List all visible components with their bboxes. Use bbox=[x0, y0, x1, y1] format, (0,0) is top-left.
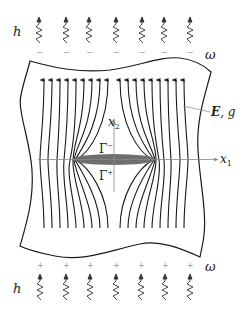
heat-zigzag-icon bbox=[63, 17, 69, 43]
positive-charge-icon: + bbox=[87, 261, 94, 270]
domain-label-top: ω bbox=[205, 47, 216, 62]
negative-charge-icon: − bbox=[86, 48, 93, 57]
bottom-charges: + + + + + + + bbox=[37, 261, 194, 270]
axis-x2-label: x2 bbox=[108, 115, 120, 131]
positive-charge-icon: + bbox=[113, 261, 120, 270]
heat-zigzag-icon bbox=[37, 274, 43, 300]
bottom-heat-sources bbox=[37, 274, 193, 300]
positive-charge-icon: + bbox=[162, 261, 169, 270]
positive-charge-icon: + bbox=[37, 261, 44, 270]
heat-flux-label-bottom: h bbox=[13, 281, 21, 296]
top-heat-sources bbox=[36, 17, 193, 43]
top-charges: − − − − − − − bbox=[36, 48, 194, 57]
negative-charge-icon: − bbox=[161, 48, 168, 57]
heat-zigzag-icon bbox=[86, 17, 92, 43]
positive-charge-icon: + bbox=[63, 261, 70, 270]
heat-zigzag-icon bbox=[161, 17, 167, 43]
heat-zigzag-icon bbox=[162, 274, 168, 300]
heat-zigzag-icon bbox=[113, 17, 119, 43]
heat-zigzag-icon bbox=[63, 274, 69, 300]
crack-face-upper-label: Γ− bbox=[99, 142, 113, 156]
heat-zigzag-icon bbox=[36, 17, 42, 43]
heat-zigzag-icon bbox=[187, 17, 193, 43]
field-label-leader bbox=[183, 106, 210, 112]
heat-zigzag-icon bbox=[139, 17, 145, 43]
negative-charge-icon: − bbox=[36, 48, 43, 57]
crack-face-lower-label: Γ+ bbox=[99, 169, 113, 183]
heat-flux-label-top: h bbox=[13, 24, 21, 39]
negative-charge-icon: − bbox=[63, 48, 70, 57]
heat-zigzag-icon bbox=[138, 274, 144, 300]
negative-charge-icon: − bbox=[187, 48, 194, 57]
negative-charge-icon: − bbox=[113, 48, 120, 57]
domain-label-bottom: ω bbox=[205, 259, 216, 274]
axis-x1-label: x1 bbox=[220, 152, 232, 168]
heat-zigzag-icon bbox=[113, 274, 119, 300]
heat-zigzag-icon bbox=[187, 274, 193, 300]
crack-field-diagram: h − − − − − − − ω x1 bbox=[0, 0, 242, 319]
negative-charge-icon: − bbox=[139, 48, 146, 57]
heat-zigzag-icon bbox=[87, 274, 93, 300]
positive-charge-icon: + bbox=[138, 261, 145, 270]
positive-charge-icon: + bbox=[187, 261, 194, 270]
field-label: E, g bbox=[210, 105, 236, 119]
